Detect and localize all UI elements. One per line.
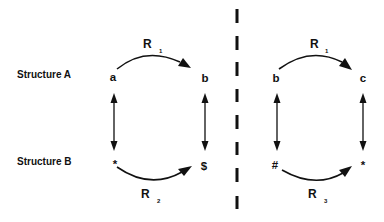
left-node-a: a <box>110 71 117 83</box>
structure-mapping-diagram: Structure A Structure B a b * $ R 1 R 2 <box>0 0 384 222</box>
structure-b-label: Structure B <box>17 156 71 167</box>
right-bottom-relation-subscript: 3 <box>324 198 328 204</box>
left-node-dollar: $ <box>201 160 208 172</box>
right-panel: b c # * R 1 R 3 <box>272 37 367 204</box>
right-top-relation-arrow-icon <box>279 55 352 70</box>
left-panel: a b * $ R 1 R 2 <box>110 37 209 204</box>
left-a-star-bidirectional-arrow-icon <box>111 93 118 151</box>
right-node-star: * <box>361 159 366 171</box>
left-top-relation-subscript: 1 <box>159 48 163 54</box>
left-bottom-relation-subscript: 2 <box>157 198 161 204</box>
left-node-star: * <box>113 158 118 170</box>
right-b-hash-bidirectional-arrow-icon <box>274 93 281 151</box>
right-bottom-relation-arrow-icon <box>282 166 352 180</box>
left-bottom-relation-label: R <box>141 187 150 201</box>
right-bottom-relation-label: R <box>308 187 317 201</box>
right-top-relation-label: R <box>310 37 319 51</box>
structure-a-label: Structure A <box>17 69 71 80</box>
left-node-b: b <box>201 72 208 84</box>
right-node-b: b <box>272 72 279 84</box>
dashed-divider <box>236 9 239 209</box>
left-b-dollar-bidirectional-arrow-icon <box>202 93 209 151</box>
right-node-hash: # <box>272 159 279 171</box>
right-top-relation-subscript: 1 <box>325 48 329 54</box>
right-c-star-bidirectional-arrow-icon <box>360 93 367 151</box>
left-top-relation-arrow-icon <box>117 55 191 69</box>
right-node-c: c <box>360 72 367 84</box>
left-top-relation-label: R <box>143 37 152 51</box>
left-bottom-relation-arrow-icon <box>117 166 192 180</box>
